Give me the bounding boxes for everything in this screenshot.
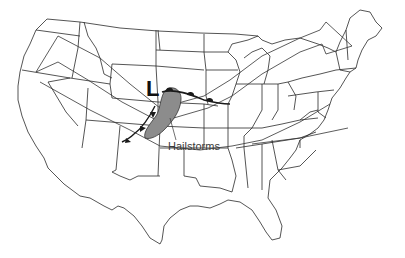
us-weather-map	[0, 0, 405, 258]
hailstorms-label: Hailstorms	[168, 140, 220, 152]
hail-label-leader	[170, 118, 176, 140]
low-pressure-symbol: L	[146, 78, 159, 100]
jet-stream-arrows	[36, 22, 352, 150]
jet-stream-north-arrow	[36, 22, 352, 122]
state-boundaries	[18, 10, 382, 244]
